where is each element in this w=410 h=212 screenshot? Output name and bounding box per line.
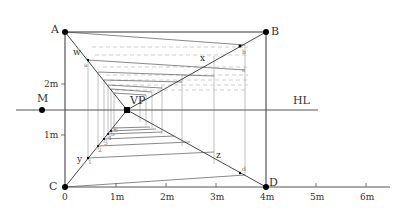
label-d: D [269,176,278,189]
depth-mark-6: 6 [114,126,118,133]
mark-d: d [242,165,246,172]
depth-mark-1: 1 [88,158,92,165]
ground-ticks [116,183,366,187]
perspective-diagram: A B C D VP M HL w x y z b c a d 1 2 3 4 … [0,0,410,212]
axis-ground-4m: 4m [260,192,275,202]
label-hl: HL [293,94,311,107]
point-a-dot [62,29,68,35]
label-x: x [200,53,205,63]
axis-ground-3m: 3m [210,192,225,202]
point-c-dot [62,184,68,190]
axis-ground-5m: 5m [310,192,325,202]
label-c: C [49,180,57,193]
ceiling-depth-lines [65,32,245,95]
label-a: A [50,23,60,36]
label-b: B [271,25,279,38]
depth-mark-2: 2 [98,146,102,153]
label-vp: VP [129,94,146,107]
axis-vertical-2m: 2m [44,79,59,89]
label-m: M [37,92,48,105]
axis-vertical-1m: 1m [44,130,59,140]
axis-ground-2m: 2m [160,192,175,202]
mark-b: b [242,48,246,55]
label-y: y [76,154,83,164]
label-z: z [216,150,221,160]
axis-ground-6m: 6m [360,192,375,202]
vp-dot [124,107,130,113]
axis-ground-1m: 1m [110,192,125,202]
axis-origin-label: 0 [62,192,68,202]
label-w: w [73,47,81,57]
point-b-dot [263,29,269,35]
point-m-dot [39,107,45,113]
mark-a: a [84,61,88,68]
